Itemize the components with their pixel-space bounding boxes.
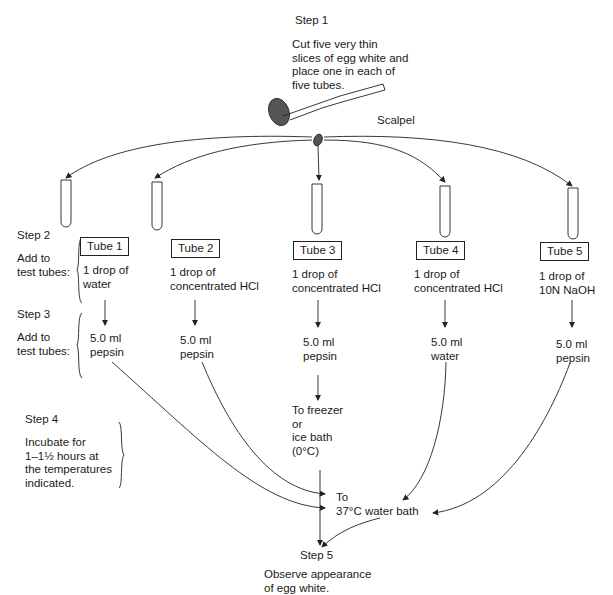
tube-5-step2: 1 drop of 10N NaOH [539,270,595,297]
step5-instructions: Observe appearance of egg white. [264,568,371,595]
water-bath-destination: To 37°C water bath [336,491,419,518]
step5-label: Step 5 [300,549,333,563]
tube-2-label: Tube 2 [171,239,220,258]
test-tube-icons [61,180,578,239]
tube-1-step2: 1 drop of water [83,264,128,291]
step2-label: Step 2 [17,229,50,243]
tube-5-label: Tube 5 [540,242,589,261]
tube-1-step3: 5.0 ml pepsin [90,332,124,359]
tube-5-step3: 5.0 ml pepsin [556,338,590,365]
step3-instructions: Add to test tubes: [17,331,70,358]
tube-3-step3: 5.0 ml pepsin [303,336,337,363]
scalpel-label: Scalpel [377,114,415,128]
tube-1-label: Tube 1 [80,237,129,256]
step4-instructions: Incubate for 1–1½ hours at the temperatu… [25,436,112,490]
step1-label: Step 1 [295,14,328,28]
freezer-destination: To freezer or ice bath (0°C) [292,404,343,458]
egg-white-icon [265,95,293,128]
step2-instructions: Add to test tubes: [17,252,70,279]
step3-label: Step 3 [17,308,50,322]
tube-4-step3: 5.0 ml water [431,336,462,363]
tube-4-step2: 1 drop of concentrated HCl [414,268,503,295]
slice-icon [312,133,324,147]
tube-2-step2: 1 drop of concentrated HCl [170,266,259,293]
step4-label: Step 4 [25,413,58,427]
step1-instructions: Cut five very thin slices of egg white a… [292,38,408,92]
tube-3-label: Tube 3 [293,241,342,260]
tube-3-step2: 1 drop of concentrated HCl [292,268,381,295]
tube-2-step3: 5.0 ml pepsin [180,334,214,361]
tube-4-label: Tube 4 [416,241,465,260]
